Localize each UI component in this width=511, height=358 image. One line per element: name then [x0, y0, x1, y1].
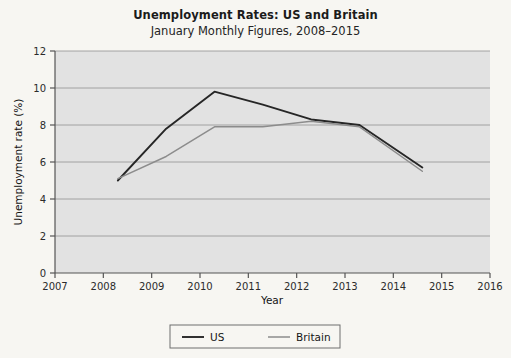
x-tick-label: 2016: [477, 281, 502, 292]
x-tick-label: 2010: [187, 281, 212, 292]
x-tick-label: 2007: [42, 281, 67, 292]
y-tick-label: 4: [40, 194, 46, 205]
plot-area-svg: 024681012 200720082009201020112012201320…: [0, 0, 511, 358]
y-tick-labels: 024681012: [33, 46, 55, 279]
unemployment-line-chart: Unemployment Rates: US and Britain Janua…: [0, 0, 511, 358]
x-tick-label: 2011: [236, 281, 261, 292]
x-tick-labels: 2007200820092010201120122013201420152016: [42, 273, 502, 292]
y-tick-label: 8: [40, 120, 46, 131]
y-tick-label: 6: [40, 157, 46, 168]
legend-label-us: US: [210, 331, 225, 343]
x-tick-label: 2009: [139, 281, 164, 292]
y-tick-label: 12: [33, 46, 46, 57]
x-tick-label: 2012: [284, 281, 309, 292]
x-axis-title: Year: [260, 294, 284, 306]
x-tick-label: 2013: [332, 281, 357, 292]
x-tick-label: 2008: [91, 281, 116, 292]
y-tick-label: 10: [33, 83, 46, 94]
x-tick-label: 2015: [429, 281, 454, 292]
legend-label-britain: Britain: [296, 331, 331, 343]
y-tick-label: 0: [40, 268, 46, 279]
legend: USBritain: [170, 325, 340, 348]
x-tick-label: 2014: [381, 281, 406, 292]
y-axis-title: Unemployment rate (%): [12, 99, 24, 226]
y-tick-label: 2: [40, 231, 46, 242]
